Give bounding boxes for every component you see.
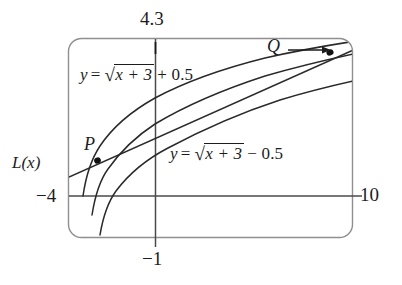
axis-label-top: 4.3 [140, 8, 164, 30]
equation-upper-lhs: y [80, 65, 88, 84]
equation-upper-tail: + 0.5 [157, 65, 193, 84]
equation-lower-tail: − 0.5 [247, 144, 283, 163]
point-p-label: P [84, 134, 95, 155]
axis-label-left: −4 [36, 185, 56, 207]
axis-label-bottom: −1 [142, 248, 162, 270]
axis-label-right: 10 [360, 184, 379, 206]
equation-lower-curve: y=√x + 3− 0.5 [170, 142, 283, 164]
equation-upper-radicand: x + 3 [114, 64, 154, 84]
point-q-label: Q [267, 36, 280, 57]
math-figure: 4.3 −1 −4 10 L(x) P Q y=√x + 3+ 0.5 y=√x… [0, 0, 402, 285]
equation-upper-eq: = [91, 65, 101, 84]
equation-upper-radical: √x + 3 [104, 63, 155, 85]
equation-lower-radicand: x + 3 [204, 143, 244, 163]
equation-upper-curve: y=√x + 3+ 0.5 [80, 63, 193, 85]
equation-lower-lhs: y [170, 144, 178, 163]
tangent-line-label: L(x) [12, 153, 40, 173]
equation-lower-radical: √x + 3 [194, 142, 245, 164]
equation-lower-eq: = [181, 144, 191, 163]
